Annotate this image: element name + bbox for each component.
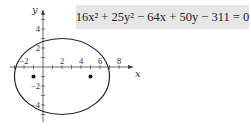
equation-label: 16x² + 25y² − 64x + 50y − 311 = 0 xyxy=(76,5,249,29)
foci-points xyxy=(32,75,93,79)
y-axis-label: y xyxy=(31,4,38,15)
svg-text:6: 6 xyxy=(98,56,102,66)
svg-text:2: 2 xyxy=(60,56,64,66)
x-axis-label: x xyxy=(135,68,141,79)
x-axis xyxy=(10,65,134,69)
svg-text:4: 4 xyxy=(79,56,84,66)
ellipse-curve xyxy=(15,39,110,115)
svg-text:8: 8 xyxy=(117,56,121,66)
svg-text:4: 4 xyxy=(36,24,41,34)
svg-text:−2: −2 xyxy=(31,81,40,91)
